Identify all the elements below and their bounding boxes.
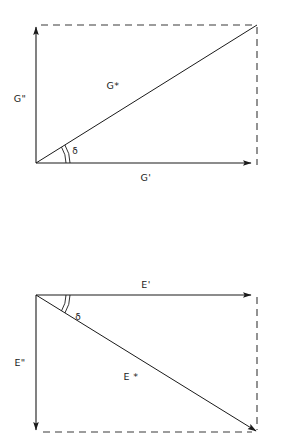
real-axis-label-e: E' — [141, 279, 150, 290]
angle-arc-inner-e — [62, 295, 67, 311]
imaginary-axis-label-g: G" — [14, 93, 27, 104]
shear-modulus-diagram: G" G' G* δ — [14, 25, 257, 183]
angle-arc-inner-g — [62, 147, 67, 163]
angle-label-delta-e: δ — [75, 312, 81, 322]
tensile-modulus-diagram: E' E" E * δ — [14, 279, 257, 432]
figure-root: G" G' G* δ E' E" E * δ — [0, 0, 284, 448]
complex-modulus-figure: G" G' G* δ E' E" E * δ — [0, 0, 284, 448]
angle-label-delta-g: δ — [72, 146, 78, 156]
resultant-vector-e-star — [36, 295, 256, 431]
real-axis-label-g: G' — [141, 172, 152, 183]
resultant-label-g-star: G* — [107, 80, 120, 91]
imaginary-axis-label-e: E" — [14, 357, 25, 368]
resultant-vector-g-star — [36, 25, 257, 163]
resultant-label-e-star: E * — [124, 371, 139, 382]
